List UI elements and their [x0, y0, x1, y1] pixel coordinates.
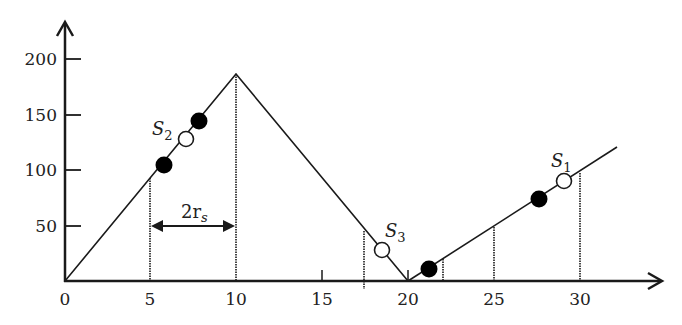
radius-label: 2rs: [181, 201, 208, 225]
label-s2-main: S: [152, 118, 164, 139]
open-marker-s3: [375, 243, 390, 258]
diagram-figure: 50 100 150 200 0 5 10 15 20 25 30 2rs: [0, 0, 682, 325]
radius-label-main: 2r: [181, 201, 201, 222]
label-s1-main: S: [551, 150, 563, 171]
filled-marker: [191, 113, 208, 130]
label-s2: S2: [152, 118, 173, 143]
y-tick-label-150: 150: [25, 105, 57, 125]
open-marker-s1: [557, 174, 572, 189]
arrow-right-icon: [223, 220, 235, 232]
y-tick-label-100: 100: [25, 160, 57, 180]
filled-marker: [156, 157, 173, 174]
radius-label-sub: s: [201, 210, 208, 225]
filled-markers: [156, 113, 548, 278]
label-s3-sub: 3: [397, 230, 405, 245]
filled-marker: [531, 191, 548, 208]
x-tick-label-5: 5: [145, 289, 156, 309]
label-s3-main: S: [385, 220, 397, 241]
label-s3: S3: [385, 220, 406, 245]
x-tick-label-15: 15: [311, 289, 333, 309]
open-marker-s2: [179, 132, 194, 147]
vertical-dotted-lines: [150, 74, 580, 289]
x-tick-label-30: 30: [569, 289, 591, 309]
label-s1: S1: [551, 150, 572, 175]
label-s1-sub: 1: [563, 160, 571, 175]
open-markers: [179, 132, 572, 258]
filled-marker: [421, 261, 438, 278]
x-tick-label-0: 0: [60, 289, 71, 309]
radius-annotation: 2rs: [151, 201, 235, 232]
y-tick-label-50: 50: [35, 216, 57, 236]
label-s2-sub: 2: [164, 128, 172, 143]
x-tick-label-20: 20: [397, 289, 419, 309]
arrow-left-icon: [151, 220, 163, 232]
y-tick-label-200: 200: [25, 49, 57, 69]
rising-line: [408, 147, 617, 281]
x-tick-label-25: 25: [483, 289, 505, 309]
curve-lines: [65, 74, 617, 281]
x-tick-label-10: 10: [225, 289, 247, 309]
